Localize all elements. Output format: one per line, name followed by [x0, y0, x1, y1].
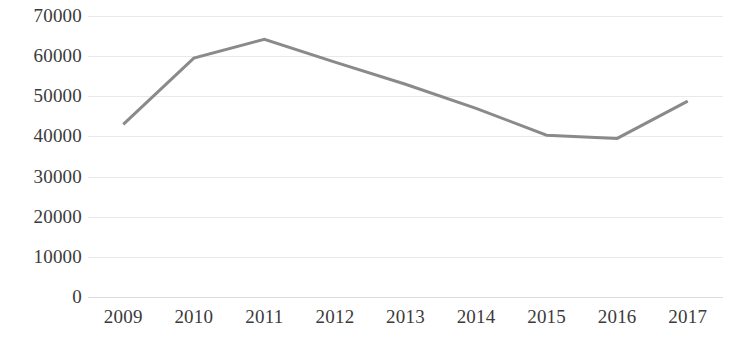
- y-tick-label: 10000: [0, 247, 82, 266]
- x-tick-label: 2016: [598, 306, 637, 328]
- y-tick-label: 50000: [0, 86, 82, 105]
- y-tick-label: 0: [0, 287, 82, 306]
- line-chart: 010000200003000040000500006000070000 200…: [0, 0, 730, 337]
- x-tick-label: 2014: [457, 306, 496, 328]
- y-tick-label: 40000: [0, 126, 82, 145]
- series-line: [123, 39, 687, 138]
- x-tick-label: 2013: [386, 306, 425, 328]
- y-tick-label: 30000: [0, 167, 82, 186]
- y-tick-label: 20000: [0, 207, 82, 226]
- y-tick-label: 70000: [0, 6, 82, 25]
- x-tick-label: 2011: [245, 306, 283, 328]
- y-tick-label: 60000: [0, 46, 82, 65]
- x-tick-label: 2017: [668, 306, 707, 328]
- x-axis: 200920102011201220132014201520162017: [88, 306, 723, 334]
- x-tick-label: 2010: [174, 306, 213, 328]
- gridline-0: [88, 297, 723, 298]
- plot-area: [88, 16, 723, 297]
- y-axis: 010000200003000040000500006000070000: [0, 0, 82, 337]
- x-tick-label: 2012: [316, 306, 355, 328]
- x-tick-label: 2015: [527, 306, 566, 328]
- series-line-layer: [88, 16, 723, 297]
- x-tick-label: 2009: [104, 306, 143, 328]
